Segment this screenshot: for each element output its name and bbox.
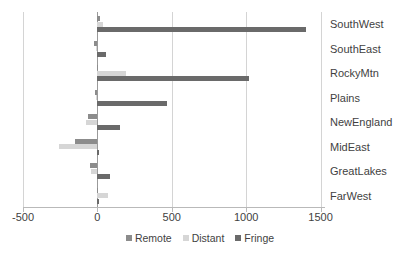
legend-item-remote[interactable]: Remote [126,232,172,244]
bar-group [23,86,325,111]
bar-group [23,135,325,160]
bar-group [23,12,325,37]
bar-southeast-distant [96,46,97,51]
bar-newengland-remote [88,114,97,119]
bar-greatlakes-fringe [97,174,110,179]
bar-group [23,184,325,209]
bar-mideast-distant [59,144,98,149]
bar-group [23,61,325,86]
legend-label: Distant [192,232,225,244]
bar-plains-fringe [97,101,167,106]
x-tick-label: 1000 [234,211,258,223]
bar-farwest-remote [97,188,98,193]
bar-southwest-distant [97,22,102,27]
bar-newengland-distant [86,120,97,125]
legend-swatch-distant-icon [183,235,189,241]
chart-legend: RemoteDistantFringe [0,232,400,244]
legend-label: Fringe [244,232,274,244]
bar-rockymtn-fringe [97,76,249,81]
x-tick-label: 1500 [308,211,332,223]
bar-plains-distant [96,95,97,100]
bar-group [23,37,325,62]
x-tick-label: 0 [94,211,100,223]
legend-label: Remote [135,232,172,244]
bar-newengland-fringe [97,125,119,130]
x-tick-label: -500 [12,211,34,223]
category-label-southeast: SouthEast [330,43,381,55]
category-label-southwest: SouthWest [330,18,384,30]
bar-chart: SouthWestSouthEastRockyMtnPlainsNewEngla… [0,0,400,257]
category-label-greatlakes: GreatLakes [330,165,387,177]
bar-group [23,159,325,184]
category-label-plains: Plains [330,92,360,104]
x-tick-label: 500 [163,211,181,223]
bar-greatlakes-distant [91,169,98,174]
bar-farwest-distant [97,193,107,198]
bar-southeast-remote [94,41,98,46]
legend-item-fringe[interactable]: Fringe [235,232,274,244]
bar-rockymtn-remote [97,65,98,70]
plot-area [23,12,325,208]
category-label-mideast: MidEast [330,141,370,153]
bar-mideast-fringe [97,150,98,155]
category-label-rockymtn: RockyMtn [330,67,379,79]
bar-rockymtn-distant [97,71,125,76]
bar-southeast-fringe [97,52,106,57]
x-axis-line [23,207,325,208]
category-label-farwest: FarWest [330,190,371,202]
bar-plains-remote [95,90,97,95]
bar-farwest-fringe [97,199,98,204]
bar-mideast-remote [75,139,97,144]
category-label-newengland: NewEngland [330,116,392,128]
bar-southwest-fringe [97,27,305,32]
legend-swatch-remote-icon [126,235,132,241]
legend-swatch-fringe-icon [235,235,241,241]
bar-group [23,110,325,135]
bar-southwest-remote [97,16,100,21]
bar-greatlakes-remote [90,163,97,168]
legend-item-distant[interactable]: Distant [183,232,225,244]
